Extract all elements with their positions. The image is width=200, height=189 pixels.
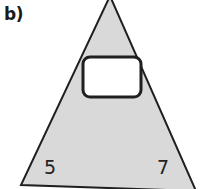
- geometry-figure-svg: [0, 0, 200, 189]
- figure-canvas: b) 5 7: [0, 0, 200, 189]
- right-side-length-label: 7: [157, 156, 169, 178]
- left-side-length-label: 5: [44, 156, 56, 178]
- panel-label: b): [4, 4, 23, 24]
- rounded-rectangle-cutout: [83, 57, 141, 97]
